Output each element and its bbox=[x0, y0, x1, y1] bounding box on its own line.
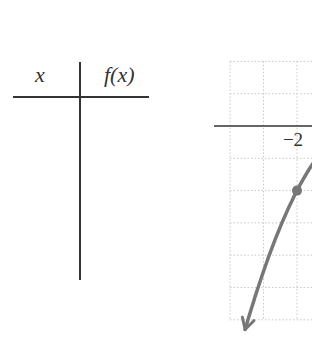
x-tick-label: −2 bbox=[283, 129, 303, 150]
function-graph: −2 bbox=[0, 0, 312, 339]
data-points bbox=[292, 186, 302, 196]
data-point bbox=[292, 186, 302, 196]
x-tick-labels: −2 bbox=[283, 129, 303, 150]
series-line-fx bbox=[245, 162, 312, 329]
